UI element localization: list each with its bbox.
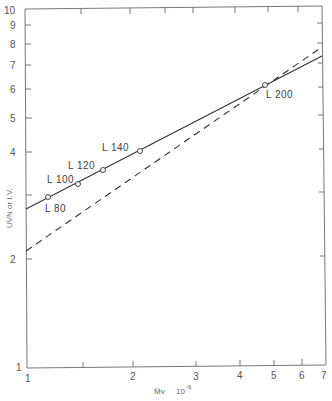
label-l80: L 80 (45, 203, 66, 214)
x-tick-1: 1 (25, 373, 31, 384)
x-tick-4: 4 (237, 370, 243, 381)
point-l100 (76, 182, 81, 187)
x-axis-title-main: M̄v (154, 387, 165, 396)
x-tick-3: 3 (193, 371, 199, 382)
x-tick-7: 7 (321, 370, 327, 381)
label-l100: L 100 (47, 174, 74, 185)
y-tick-1: 1 (16, 362, 22, 373)
point-l200 (263, 83, 268, 88)
x-axis-title-sup: -6 (186, 384, 192, 390)
point-l120 (101, 168, 106, 173)
label-l200: L 200 (266, 89, 293, 100)
y-tick-9: 9 (10, 20, 16, 31)
chart: 10 9 8 7 6 5 4 2 1 UVN or I.V. 1 2 3 4 5… (0, 0, 332, 401)
x-axis-title: M̄v 10 -6 (154, 384, 192, 396)
y-tick-7: 7 (10, 60, 16, 71)
x-tick-6: 6 (299, 370, 305, 381)
y-tick-6: 6 (10, 84, 16, 95)
y-tick-10: 10 (4, 5, 16, 16)
x-tick-5: 5 (271, 370, 277, 381)
plot-frame (25, 6, 326, 368)
point-labels: L 80 L 100 L 120 L 140 L 200 (45, 89, 293, 214)
point-l140 (138, 149, 143, 154)
x-axis-title-exp: 10 (176, 387, 185, 396)
label-l140: L 140 (102, 142, 129, 153)
x-tick-labels: 1 2 3 4 5 6 7 (25, 370, 327, 384)
point-l80 (46, 195, 51, 200)
y-tick-4: 4 (10, 147, 16, 158)
y-tick-8: 8 (10, 39, 16, 50)
dashed-line-iv (26, 47, 322, 251)
x-tick-2: 2 (130, 371, 136, 382)
y-tick-2: 2 (10, 254, 16, 265)
label-l120: L 120 (68, 160, 95, 171)
y-axis-title: UVN or I.V. (5, 188, 14, 228)
solid-line-uvn (26, 56, 322, 209)
y-tick-5: 5 (10, 113, 16, 124)
